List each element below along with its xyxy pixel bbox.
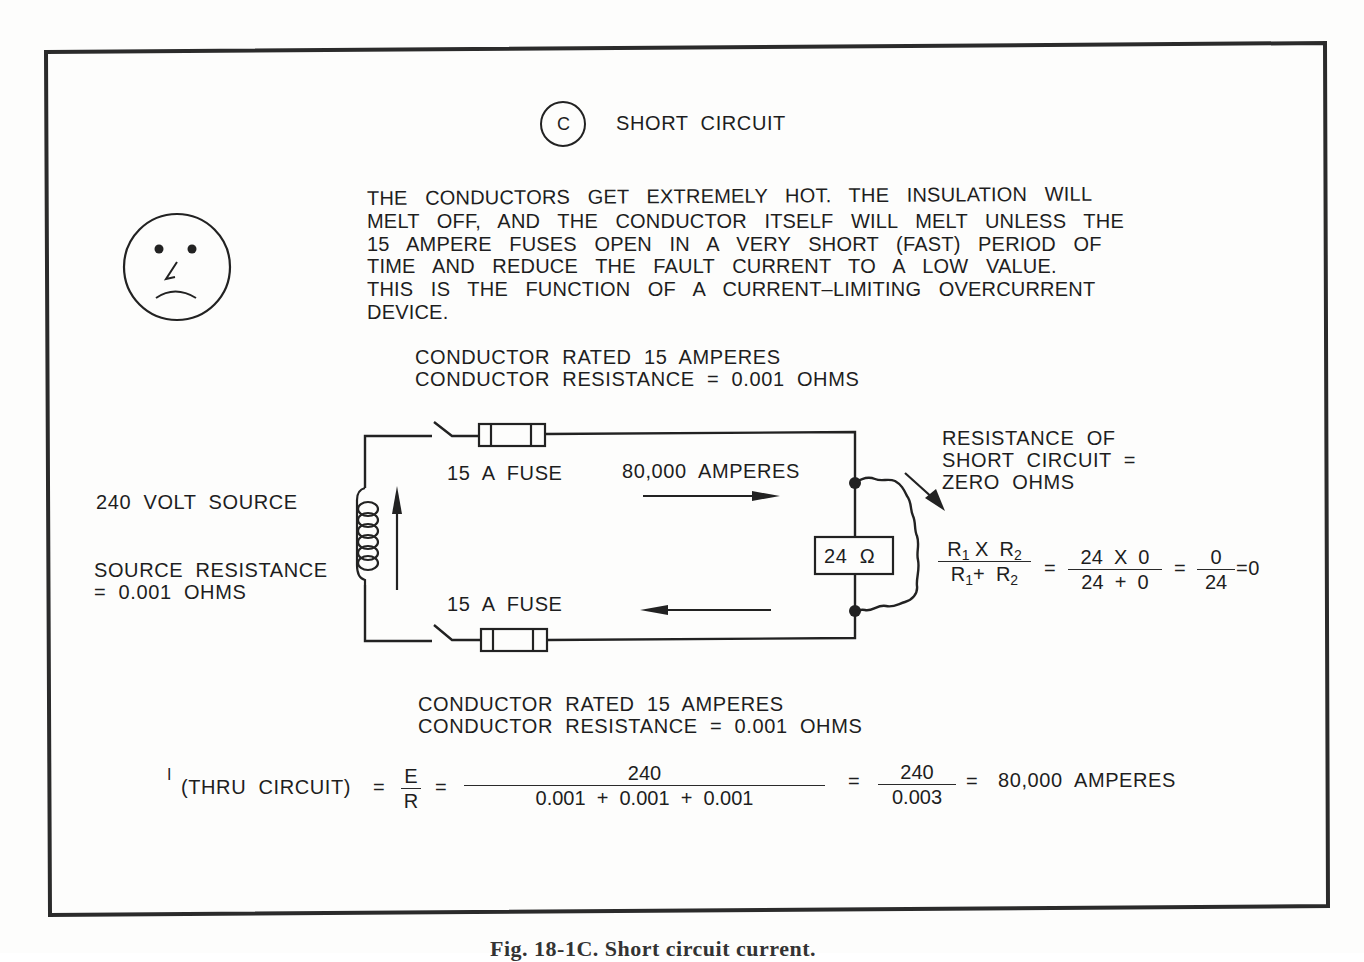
parallel-formula-fraction-3: 0 24 <box>1197 546 1235 593</box>
top-fuse-icon <box>479 424 545 446</box>
fraction-bar <box>1068 569 1162 570</box>
second-fraction-numerator: 240 <box>878 761 956 783</box>
current-formula-result: 80,000 AMPERES <box>998 769 1176 792</box>
short-circuit-note-line-1: RESISTANCE OF <box>942 427 1116 450</box>
circle-c-label: C <box>557 113 571 136</box>
top-conductor-resistance: CONDUCTOR RESISTANCE = 0.001 OHMS <box>415 368 859 391</box>
current-formula-equals-1: = <box>373 776 385 799</box>
parallel-formula-result: =0 <box>1236 557 1260 580</box>
description-paragraph: THE CONDUCTORS GET EXTREMELY HOT. THE IN… <box>367 187 1127 324</box>
current-formula-second-fraction: 240 0.003 <box>878 761 956 808</box>
bottom-fuse-icon <box>481 629 547 651</box>
current-formula-subscript: (THRU CIRCUIT) <box>181 776 351 799</box>
parallel-formula-fraction-1: R1 X R2 R1+ R2 <box>938 538 1031 585</box>
parallel-formula-equals-1: = <box>1044 557 1056 580</box>
source-resistance-line-1: SOURCE RESISTANCE <box>94 559 328 582</box>
fraction-bar <box>401 788 421 789</box>
figure-caption: Fig. 18-1C. Short circuit current. <box>490 936 816 962</box>
source-voltage-label: 240 VOLT SOURCE <box>96 491 298 514</box>
description-line-5: THIS IS THE FUNCTION OF A CURRENT–LIMITI… <box>367 278 1127 301</box>
e-numerator: E <box>401 765 421 787</box>
bottom-conductor-resistance: CONDUCTOR RESISTANCE = 0.001 OHMS <box>418 715 862 738</box>
parallel-formula-denominator: R1+ R2 <box>938 563 1031 585</box>
description-line-4: TIME AND REDUCE THE FAULT CURRENT TO A L… <box>367 255 1127 278</box>
main-fraction-denominator: 0.001 + 0.001 + 0.001 <box>464 787 825 809</box>
short-circuit-note-line-3: ZERO OHMS <box>942 471 1075 494</box>
sad-face-icon <box>124 214 230 320</box>
description-line-6: DEVICE. <box>367 301 1127 324</box>
source-coil-icon <box>357 488 378 585</box>
r-denominator: R <box>401 790 421 812</box>
parallel-formula-numerator: R1 X R2 <box>938 538 1031 560</box>
parallel-formula-fraction-2: 24 X 0 24 + 0 <box>1068 546 1162 593</box>
fraction-bar <box>464 785 825 786</box>
bottom-conductor-rating: CONDUCTOR RATED 15 AMPERES <box>418 693 784 716</box>
current-label: 80,000 AMPERES <box>622 460 800 483</box>
load-resistor-label: 24 Ω <box>824 545 875 568</box>
top-conductor-rating: CONDUCTOR RATED 15 AMPERES <box>415 346 781 369</box>
fraction-bar <box>1197 569 1235 570</box>
second-fraction-denominator: 0.003 <box>878 786 956 808</box>
source-resistance-line-2: = 0.001 OHMS <box>94 581 246 604</box>
current-formula-equals-4: = <box>966 770 978 793</box>
fraction-bar <box>878 784 956 785</box>
fraction-3-numerator: 0 <box>1197 546 1235 568</box>
fraction-3-denominator: 24 <box>1197 571 1235 593</box>
parallel-formula-equals-2: = <box>1174 557 1186 580</box>
main-fraction-numerator: 240 <box>464 762 825 784</box>
description-line-2: MELT OFF, AND THE CONDUCTOR ITSELF WILL … <box>367 210 1127 233</box>
fraction-2-numerator: 24 X 0 <box>1068 546 1162 568</box>
current-arrow-right-icon <box>643 491 780 501</box>
current-arrow-left-icon <box>640 605 771 615</box>
current-formula-i: I <box>167 763 172 786</box>
current-formula-e-over-r: E R <box>401 765 421 812</box>
current-formula-equals-3: = <box>848 770 860 793</box>
current-formula-main-fraction: 240 0.001 + 0.001 + 0.001 <box>464 762 825 809</box>
figure-title: SHORT CIRCUIT <box>616 112 786 135</box>
circuit-wires <box>365 422 855 641</box>
top-fuse-label: 15 A FUSE <box>447 462 563 485</box>
bottom-fuse-label: 15 A FUSE <box>447 593 563 616</box>
source-current-arrow-icon <box>392 486 402 590</box>
description-line-1: THE CONDUCTORS GET EXTREMELY HOT. THE IN… <box>367 182 1127 209</box>
current-formula-equals-2: = <box>435 776 447 799</box>
fraction-2-denominator: 24 + 0 <box>1068 571 1162 593</box>
description-line-3: 15 AMPERE FUSES OPEN IN A VERY SHORT (FA… <box>367 233 1127 256</box>
short-circuit-note-line-2: SHORT CIRCUIT = <box>942 449 1136 472</box>
